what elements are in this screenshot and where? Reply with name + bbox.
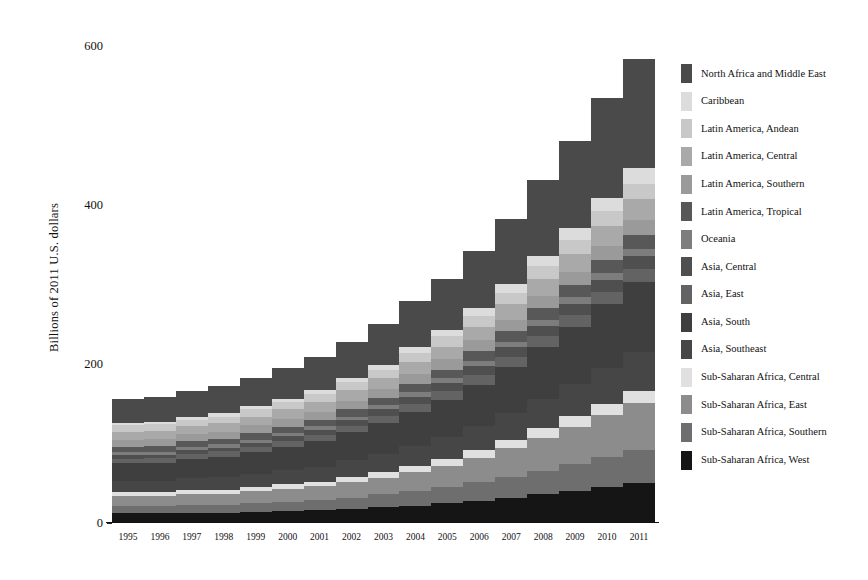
legend-item[interactable]: Sub-Saharan Africa, Southern	[681, 419, 866, 447]
bar-segment[interactable]	[623, 450, 655, 483]
bar-segment[interactable]	[208, 494, 240, 505]
bar-segment[interactable]	[336, 460, 368, 477]
bar-segment[interactable]	[591, 198, 623, 212]
bar-segment[interactable]	[399, 384, 431, 392]
bar-segment[interactable]	[304, 486, 336, 500]
bar-segment[interactable]	[304, 412, 336, 420]
legend-item[interactable]: Latin America, Southern	[681, 170, 866, 198]
bar-segment[interactable]	[399, 301, 431, 347]
bar-segment[interactable]	[144, 439, 176, 446]
bar-segment[interactable]	[431, 459, 463, 466]
bar-segment[interactable]	[304, 402, 336, 412]
bar-segment[interactable]	[240, 378, 272, 407]
bar-segment[interactable]	[463, 426, 495, 450]
bar-segment[interactable]	[495, 304, 527, 319]
bar-segment[interactable]	[368, 478, 400, 495]
bar-segment[interactable]	[431, 391, 463, 400]
bar-segment[interactable]	[463, 385, 495, 426]
bar-segment[interactable]	[623, 168, 655, 183]
bar-segment[interactable]	[559, 304, 591, 315]
bar-segment[interactable]	[112, 481, 144, 492]
bar-segment[interactable]	[272, 502, 304, 512]
bar-segment[interactable]	[112, 463, 144, 480]
bar-column[interactable]: 1999	[240, 30, 272, 523]
bar-segment[interactable]	[591, 246, 623, 260]
bar-segment[interactable]	[240, 452, 272, 473]
bar-segment[interactable]	[559, 285, 591, 297]
legend-item[interactable]: Asia, South	[681, 308, 866, 336]
bar-segment[interactable]	[272, 402, 304, 409]
bar-segment[interactable]	[304, 441, 336, 466]
bar-segment[interactable]	[368, 389, 400, 398]
bar-segment[interactable]	[527, 266, 559, 279]
legend-item[interactable]: Asia, East	[681, 281, 866, 309]
legend-item[interactable]: Latin America, Tropical	[681, 198, 866, 226]
bar-segment[interactable]	[495, 320, 527, 332]
bar-column[interactable]: 2001	[304, 30, 336, 523]
bar-segment[interactable]	[623, 199, 655, 220]
bar-segment[interactable]	[176, 478, 208, 490]
bar-segment[interactable]	[559, 327, 591, 384]
bar-segment[interactable]	[431, 383, 463, 391]
bar-segment[interactable]	[559, 384, 591, 417]
bar-segment[interactable]	[591, 368, 623, 404]
bar-segment[interactable]	[463, 327, 495, 341]
bar-segment[interactable]	[623, 282, 655, 352]
bar-segment[interactable]	[431, 466, 463, 487]
bar-segment[interactable]	[336, 382, 368, 390]
bar-segment[interactable]	[431, 347, 463, 360]
bar-segment[interactable]	[368, 324, 400, 365]
bar-segment[interactable]	[463, 458, 495, 483]
bar-segment[interactable]	[112, 399, 144, 423]
bar-segment[interactable]	[623, 403, 655, 450]
bar-segment[interactable]	[336, 409, 368, 416]
bar-segment[interactable]	[527, 279, 559, 296]
bar-column[interactable]: 1995	[112, 30, 144, 523]
bar-segment[interactable]	[591, 273, 623, 280]
bar-segment[interactable]	[495, 331, 527, 341]
bar-segment[interactable]	[368, 378, 400, 389]
bar-segment[interactable]	[208, 423, 240, 432]
bar-column[interactable]: 2002	[336, 30, 368, 523]
bar-segment[interactable]	[623, 184, 655, 199]
bar-segment[interactable]	[304, 500, 336, 510]
bar-segment[interactable]	[399, 491, 431, 505]
bar-segment[interactable]	[623, 59, 655, 169]
bar-segment[interactable]	[559, 464, 591, 491]
bar-column[interactable]: 2010	[591, 30, 623, 523]
bar-segment[interactable]	[591, 226, 623, 246]
bar-segment[interactable]	[144, 481, 176, 492]
bar-segment[interactable]	[272, 409, 304, 419]
bar-segment[interactable]	[176, 494, 208, 505]
bar-segment[interactable]	[336, 342, 368, 379]
bar-segment[interactable]	[591, 457, 623, 487]
bar-segment[interactable]	[527, 296, 559, 309]
bar-segment[interactable]	[176, 459, 208, 478]
bar-segment[interactable]	[368, 398, 400, 405]
bar-segment[interactable]	[431, 487, 463, 503]
bar-segment[interactable]	[591, 404, 623, 415]
bar-segment[interactable]	[591, 260, 623, 273]
bar-segment[interactable]	[431, 400, 463, 437]
bar-segment[interactable]	[208, 432, 240, 439]
bar-segment[interactable]	[112, 496, 144, 506]
bar-segment[interactable]	[527, 308, 559, 319]
bar-segment[interactable]	[527, 347, 559, 399]
legend-item[interactable]: Oceania	[681, 226, 866, 254]
bar-segment[interactable]	[591, 280, 623, 292]
bar-segment[interactable]	[495, 448, 527, 477]
bar-segment[interactable]	[463, 366, 495, 375]
bar-segment[interactable]	[495, 357, 527, 367]
bar-segment[interactable]	[527, 326, 559, 336]
bar-column[interactable]: 2007	[495, 30, 527, 523]
bar-segment[interactable]	[176, 434, 208, 441]
bar-segment[interactable]	[368, 370, 400, 379]
bar-segment[interactable]	[399, 446, 431, 466]
bar-segment[interactable]	[623, 220, 655, 235]
bar-segment[interactable]	[336, 401, 368, 410]
bar-segment[interactable]	[495, 498, 527, 523]
bar-segment[interactable]	[368, 416, 400, 423]
bar-segment[interactable]	[399, 374, 431, 384]
bar-segment[interactable]	[208, 477, 240, 490]
bar-column[interactable]: 2004	[399, 30, 431, 523]
